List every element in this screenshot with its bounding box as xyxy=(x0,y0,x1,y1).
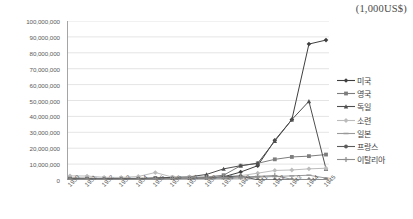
series-line xyxy=(70,40,326,179)
y-tick-label: 40,000,000 xyxy=(30,113,60,120)
legend-item[interactable]: 영국 xyxy=(336,87,413,100)
y-tick-label: 20,000,000 xyxy=(30,145,60,152)
legend-label: 이탈리아 xyxy=(357,154,385,165)
data-point-marker xyxy=(344,133,349,135)
data-point-marker xyxy=(324,153,328,157)
data-point-marker xyxy=(307,99,311,103)
legend-item[interactable]: 독일 xyxy=(336,100,413,113)
chart-legend: 미국영국독일소련일본프랑스이탈리아 xyxy=(336,74,413,166)
data-point-marker xyxy=(290,155,294,159)
legend-marker-icon xyxy=(336,75,356,86)
chart-title: (1,000US$) xyxy=(356,3,407,14)
y-tick-label: 0 xyxy=(57,177,60,184)
data-point-marker xyxy=(307,42,312,47)
data-point-marker xyxy=(289,168,294,173)
legend-marker-icon xyxy=(336,128,356,139)
chart-container: (1,000US$) 010,000,00020,000,00030,000,0… xyxy=(0,0,413,219)
y-axis: 010,000,00020,000,00030,000,00040,000,00… xyxy=(0,21,64,180)
plot-svg xyxy=(67,21,329,180)
plot-area xyxy=(67,21,329,180)
data-point-marker xyxy=(344,118,349,123)
data-point-marker xyxy=(324,38,329,43)
series-2 xyxy=(68,99,328,180)
series-0 xyxy=(68,38,329,180)
legend-marker-icon xyxy=(336,115,356,126)
legend-item[interactable]: 프랑스 xyxy=(336,140,413,153)
y-tick-label: 50,000,000 xyxy=(30,97,60,104)
data-point-marker xyxy=(344,145,348,149)
series-line xyxy=(70,101,326,179)
legend-label: 독일 xyxy=(357,101,371,112)
y-tick-label: 80,000,000 xyxy=(30,49,60,56)
legend-item[interactable]: 미국 xyxy=(336,74,413,87)
y-tick-label: 60,000,000 xyxy=(30,81,60,88)
x-axis: 1930193119321933193419351936193719381939… xyxy=(67,181,329,219)
y-tick-label: 70,000,000 xyxy=(30,65,60,72)
data-point-marker xyxy=(344,78,349,83)
data-point-marker xyxy=(272,168,277,173)
legend-marker-icon xyxy=(336,88,356,99)
legend-item[interactable]: 일본 xyxy=(336,127,413,140)
legend-item[interactable]: 소련 xyxy=(336,114,413,127)
legend-label: 프랑스 xyxy=(357,141,378,152)
data-point-marker xyxy=(344,157,349,162)
y-tick-label: 90,000,000 xyxy=(30,33,60,40)
data-point-marker xyxy=(307,154,311,158)
legend-marker-icon xyxy=(336,101,356,112)
y-tick-label: 10,000,000 xyxy=(30,161,60,168)
legend-item[interactable]: 이탈리아 xyxy=(336,153,413,166)
data-point-marker xyxy=(344,92,348,96)
legend-label: 소련 xyxy=(357,115,371,126)
legend-label: 영국 xyxy=(357,88,371,99)
data-point-marker xyxy=(153,170,158,175)
legend-marker-icon xyxy=(336,141,356,152)
data-point-marker xyxy=(273,157,277,161)
data-point-marker xyxy=(307,166,312,171)
legend-label: 일본 xyxy=(357,128,371,139)
legend-label: 미국 xyxy=(357,75,371,86)
y-tick-label: 30,000,000 xyxy=(30,129,60,136)
y-tick-label: 100,000,000 xyxy=(26,18,60,25)
legend-marker-icon xyxy=(336,154,356,165)
